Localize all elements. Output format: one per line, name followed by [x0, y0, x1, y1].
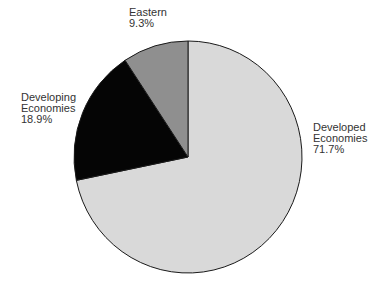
- label-developed-value: 71.7%: [313, 144, 367, 155]
- label-eastern-value: 9.3%: [129, 18, 167, 29]
- label-eastern: Eastern 9.3%: [129, 7, 167, 29]
- label-developed-economies: Developed Economies 71.7%: [313, 122, 367, 155]
- label-developing-economies: Developing Economies 18.9%: [21, 92, 76, 125]
- label-developing-value: 18.9%: [21, 114, 76, 125]
